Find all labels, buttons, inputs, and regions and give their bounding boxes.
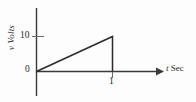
waveform-figure: v Volts 10 0 1 t Sec (0, 0, 196, 102)
y-axis-label: v Volts (7, 14, 16, 62)
y-tick-label-10: 10 (20, 31, 30, 41)
origin-label: 0 (25, 65, 30, 75)
x-axis-unit: Sec (171, 63, 184, 73)
x-axis-label: t Sec (166, 64, 184, 73)
x-axis-arrowhead (156, 68, 164, 76)
waveform-plot (0, 0, 196, 102)
waveform-ramp-line (37, 37, 113, 72)
x-tick-label-1: 1 (109, 77, 114, 87)
